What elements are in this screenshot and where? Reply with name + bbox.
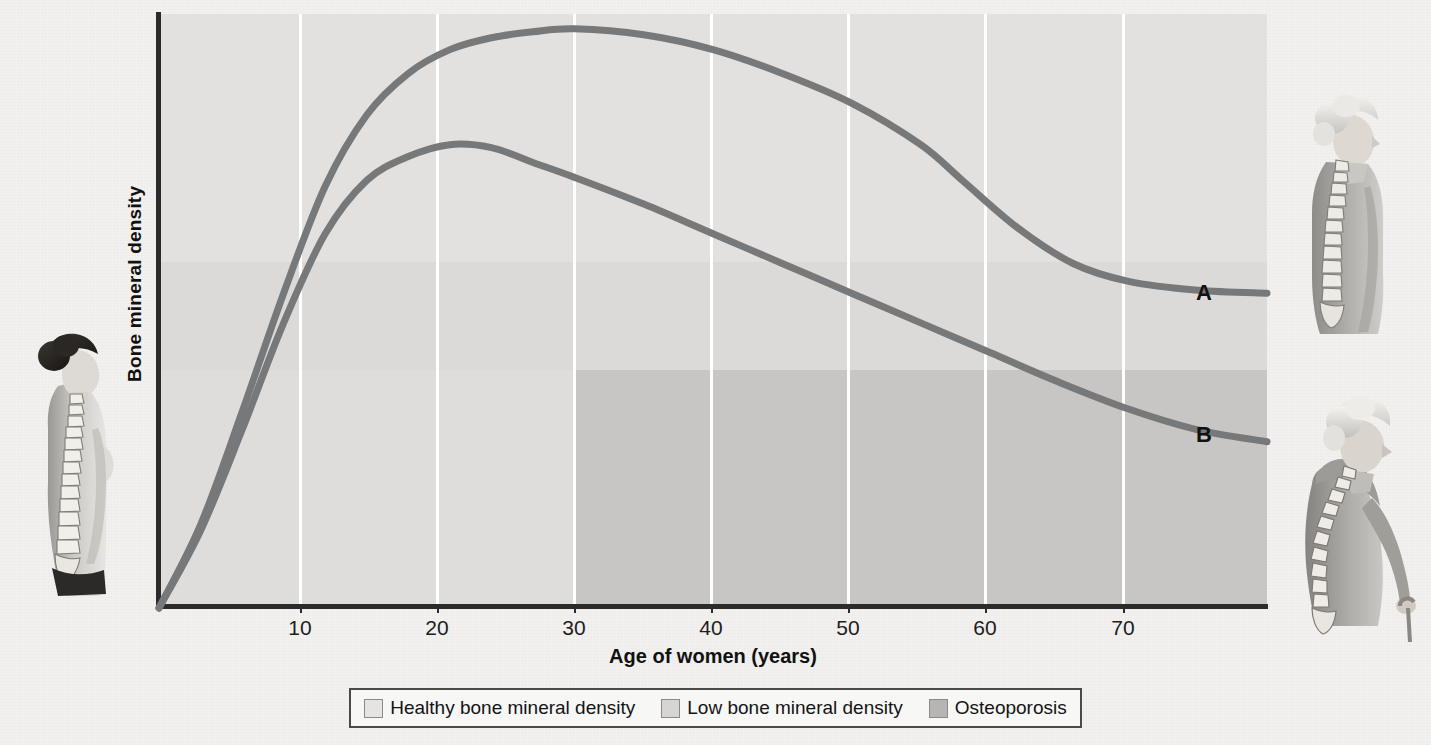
legend-label-osteoporosis: Osteoporosis [955,697,1067,719]
x-tick-label-10: 10 [270,616,330,640]
y-axis-title-wrap: Bone mineral density [128,180,158,440]
curve-label-a: A [1196,280,1212,306]
gridline-10 [299,14,302,608]
x-tick-70 [1123,604,1125,613]
legend-label-low: Low bone mineral density [687,697,902,719]
x-tick-30 [574,604,576,613]
legend-item-healthy: Healthy bone mineral density [364,697,635,719]
legend-swatch-low-icon [661,699,680,718]
legend: Healthy bone mineral density Low bone mi… [349,688,1082,728]
elderly-woman-kyphosis-illustration [1282,380,1428,642]
x-tick-50 [848,604,850,613]
x-tick-label-30: 30 [544,616,604,640]
band-osteoporosis [573,370,1267,608]
x-tick-label-40: 40 [681,616,741,640]
legend-label-healthy: Healthy bone mineral density [390,697,635,719]
legend-swatch-healthy-icon [364,699,383,718]
gridline-30 [573,14,576,608]
x-axis-title: Age of women (years) [159,645,1267,668]
legend-item-osteoporosis: Osteoporosis [929,697,1067,719]
older-woman-spine-illustration [1286,90,1416,340]
gridline-50 [847,14,850,608]
x-tick-label-70: 70 [1093,616,1153,640]
young-woman-spine-illustration [14,332,142,604]
legend-item-low: Low bone mineral density [661,697,902,719]
curve-label-b: B [1196,422,1212,448]
y-axis-title: Bone mineral density [124,122,146,382]
plot-area [159,14,1267,608]
legend-swatch-osteoporosis-icon [929,699,948,718]
x-tick-label-50: 50 [818,616,878,640]
x-tick-10 [300,604,302,613]
gridline-40 [710,14,713,608]
gridline-20 [436,14,439,608]
gridline-60 [984,14,987,608]
x-tick-label-20: 20 [407,616,467,640]
x-tick-40 [711,604,713,613]
band-low-bone-mineral-density [159,262,1267,370]
band-healthy-bone-mineral-density [159,14,1267,262]
x-tick-20 [437,604,439,613]
x-tick-label-60: 60 [955,616,1015,640]
gridline-70 [1122,14,1125,608]
x-tick-60 [985,604,987,613]
